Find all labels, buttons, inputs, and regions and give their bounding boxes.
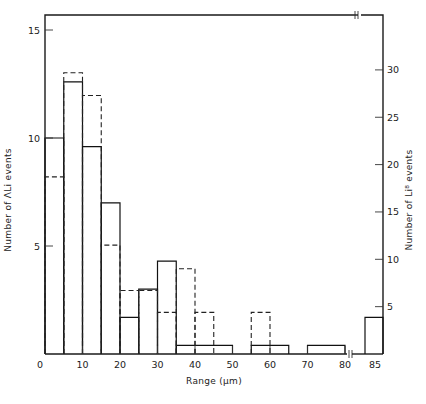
x-tick-label: 50 — [226, 359, 238, 370]
y-right-tick-label: 20 — [387, 159, 399, 170]
y-right-tick-label: 30 — [387, 64, 399, 75]
y-right-tick-label: 15 — [387, 206, 399, 217]
x-tick-label: 85 — [369, 359, 381, 370]
y-axis-right-label: Number of Li⁸ events — [404, 150, 414, 251]
histogram-bin — [101, 245, 120, 354]
x-tick-label: 30 — [151, 359, 163, 370]
histogram-bin — [308, 345, 346, 354]
y-left-tick-label: 15 — [28, 25, 40, 36]
axis-right-top — [361, 15, 383, 354]
histogram-bin — [120, 291, 139, 354]
series-lambda-li-solid — [45, 82, 383, 354]
x-tick-label: 40 — [189, 359, 201, 370]
histogram-bin — [365, 317, 383, 354]
x-tick-label: 10 — [76, 359, 88, 370]
histogram-bin — [45, 177, 64, 354]
histogram-bin — [195, 312, 214, 354]
y-axis-left-label: Number of ΛLi events — [3, 148, 13, 251]
x-tick-label: 70 — [301, 359, 313, 370]
histogram-bin — [158, 261, 177, 354]
histogram-bin — [139, 291, 158, 354]
plot-frame — [45, 11, 383, 358]
histogram-bin — [158, 312, 177, 354]
series-li8-dashed — [45, 73, 270, 354]
x-tick-label: 60 — [264, 359, 276, 370]
histogram-bin — [64, 82, 83, 354]
histogram-bin — [83, 95, 102, 354]
histogram-bin — [64, 73, 83, 354]
histogram-bin — [139, 289, 158, 354]
histogram-bin — [251, 312, 270, 354]
x-tick-label: 80 — [339, 359, 351, 370]
histogram-chart: 01020304050607080855101551015202530 Rang… — [0, 0, 426, 404]
y-left-tick-label: 5 — [34, 241, 40, 252]
x-tick-label: 20 — [114, 359, 126, 370]
y-right-tick-label: 10 — [387, 254, 399, 265]
histogram-bin — [120, 317, 139, 354]
y-right-tick-label: 25 — [387, 112, 399, 123]
histogram-bin — [176, 345, 232, 354]
x-axis-label: Range (µm) — [186, 376, 242, 386]
axis-left-top — [45, 15, 355, 354]
histogram-bin — [83, 147, 102, 354]
x-tick-label: 0 — [37, 359, 43, 370]
histogram-bin — [176, 269, 195, 354]
histogram-bin — [101, 203, 120, 354]
y-left-tick-label: 10 — [28, 133, 40, 144]
y-right-tick-label: 5 — [387, 301, 393, 312]
